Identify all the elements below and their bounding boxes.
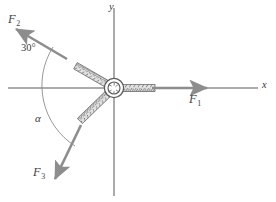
angle-arc-group — [42, 47, 75, 146]
x-axis-label: x — [262, 80, 267, 91]
force-label-f2-subscript: 2 — [16, 19, 20, 28]
rope-f1 — [121, 84, 155, 91]
force-label-f1-symbol: F — [189, 92, 197, 106]
force-arrow-f3 — [55, 125, 81, 179]
angle-label-30: 30° — [21, 43, 36, 54]
y-axis-label: y — [109, 2, 114, 13]
force-label-f2-symbol: F — [8, 12, 16, 26]
force-label-f2: F2 — [8, 13, 20, 26]
force-label-f3-subscript: 3 — [41, 172, 45, 181]
force-label-f3-symbol: F — [33, 165, 41, 179]
force-label-f1-subscript: 1 — [197, 99, 201, 108]
angle-arc — [42, 47, 75, 146]
force-label-f1: F1 — [189, 93, 201, 106]
force-label-f3: F3 — [33, 166, 45, 179]
ring-connector — [104, 78, 123, 97]
force-diagram-figure: y x F2 F1 F3 30° α — [0, 0, 276, 202]
axis-group — [8, 8, 258, 196]
rope-f3 — [77, 91, 111, 124]
rope-f2 — [74, 63, 110, 88]
angle-label-alpha: α — [35, 113, 41, 124]
